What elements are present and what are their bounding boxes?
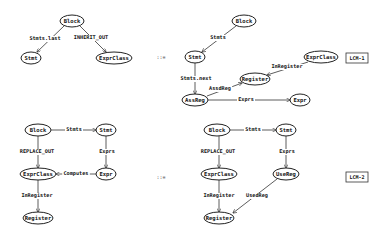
node-label: ExprClass xyxy=(99,55,129,62)
edge-label: REPLACE_OUT xyxy=(20,148,54,155)
node-expr: Expr xyxy=(290,94,310,106)
node-label: Stmt xyxy=(99,127,112,133)
node-register: Register xyxy=(240,73,270,85)
edge-label: Exprs xyxy=(99,148,115,155)
node-label: UseReg xyxy=(276,171,296,178)
node-exprclass: ExprClass xyxy=(96,52,132,64)
node-stmt: Stmt xyxy=(185,51,205,63)
rule-label: LCM-1 xyxy=(349,55,364,61)
node-block: Block xyxy=(25,124,51,136)
node-label: Block xyxy=(64,18,81,24)
node-stmt: Stmt xyxy=(96,124,116,136)
node-exprclass: ExprClass xyxy=(304,51,338,63)
edge-label: Stmts.next xyxy=(180,75,211,81)
node-label: Register xyxy=(242,76,269,83)
node-label: Block xyxy=(30,127,47,133)
node-assreg: AssReg xyxy=(182,94,208,106)
node-stmt: Stmt xyxy=(276,124,296,136)
rewrite-symbols-layer: ::=::= xyxy=(156,54,165,180)
node-label: Register xyxy=(206,215,233,222)
rule-label-box: LCM-1 xyxy=(346,53,368,63)
edge-label: Exprs xyxy=(238,96,254,103)
rewrite-symbol: ::= xyxy=(156,54,165,60)
node-exprclass: ExprClass xyxy=(201,168,237,180)
graph-rewrite-diagram: Stmts.lastINHERIT_OUTStmtsStmts.nextInRe… xyxy=(0,0,380,239)
rule-label-box: LCM-2 xyxy=(346,172,368,182)
node-label: ExprClass xyxy=(204,171,234,178)
node-label: AssReg xyxy=(185,97,205,104)
edge-label: UsedReg xyxy=(246,192,268,199)
node-block: Block xyxy=(60,15,84,27)
node-label: ExprClass xyxy=(306,54,336,61)
node-label: Block xyxy=(236,18,253,24)
node-stmt: Stmt xyxy=(21,52,41,64)
node-block: Block xyxy=(204,124,230,136)
node-expr: Expr xyxy=(96,168,116,180)
edge-label: AssdReg xyxy=(209,85,231,92)
node-label: Block xyxy=(209,127,226,133)
rule-labels-layer: LCM-1LCM-2 xyxy=(346,53,368,182)
edge-label: Computes xyxy=(64,170,89,177)
node-label: Stmt xyxy=(279,127,292,133)
nodes-layer: BlockStmtExprClassBlockStmtExprClassRegi… xyxy=(20,15,338,224)
edge-label: InRegister xyxy=(21,192,52,199)
edges-layer xyxy=(37,26,308,213)
node-usereg: UseReg xyxy=(273,168,299,180)
edge-label: Exprs xyxy=(279,148,295,155)
node-label: Expr xyxy=(293,97,307,104)
edge-label: INHERIT_OUT xyxy=(74,34,108,41)
edge-label: InRegister xyxy=(271,63,302,70)
node-block: Block xyxy=(232,15,256,27)
node-register: Register xyxy=(23,212,53,224)
node-register: Register xyxy=(204,212,234,224)
edge-label: REPLACE_OUT xyxy=(201,148,235,155)
rule-label: LCM-2 xyxy=(349,174,364,180)
rewrite-symbol: ::= xyxy=(156,174,165,180)
edge-label: Stmts.last xyxy=(29,35,60,41)
node-label: Register xyxy=(25,215,52,222)
node-exprclass: ExprClass xyxy=(20,168,56,180)
edge-label: Stmts xyxy=(210,34,226,40)
node-label: Expr xyxy=(99,171,113,178)
node-label: Stmt xyxy=(188,54,201,60)
node-label: ExprClass xyxy=(23,171,53,178)
edge-label: Stmts xyxy=(245,126,261,132)
edge-label: Stmts xyxy=(66,126,82,132)
node-label: Stmt xyxy=(24,55,37,61)
edge-label: InRegister xyxy=(203,192,234,199)
